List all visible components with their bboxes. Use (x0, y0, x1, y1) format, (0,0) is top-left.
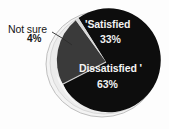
slice-label-dissatisfied: Dissatisfied ' (79, 62, 142, 74)
slice-percent-not-sure: 4% (27, 33, 41, 44)
slice-percent-dissatisfied: 63% (97, 78, 118, 90)
pie-chart: 'Satisfied 33% Dissatisfied ' 63% Not su… (0, 0, 169, 129)
slice-percent-satisfied: 33% (100, 33, 121, 45)
slice-label-satisfied: 'Satisfied (85, 18, 130, 30)
